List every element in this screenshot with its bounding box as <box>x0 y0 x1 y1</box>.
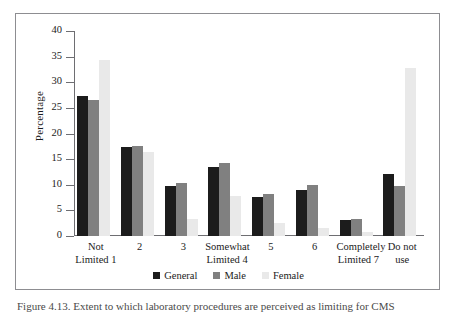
x-axis-label: 6 <box>293 240 337 253</box>
bar-general <box>383 174 394 236</box>
y-axis-tick-label: 0 <box>40 229 62 240</box>
y-axis-tick: 5 <box>66 210 74 211</box>
bar-cluster <box>119 31 163 236</box>
bar-general <box>121 147 132 236</box>
x-axis-label: Do not use <box>380 240 424 266</box>
legend-item[interactable]: Female <box>262 270 304 281</box>
bar-cluster <box>294 31 338 236</box>
y-axis-tick: 15 <box>66 159 74 160</box>
bar-cluster <box>250 31 294 236</box>
bar-female <box>187 219 198 236</box>
bar-general <box>165 186 176 236</box>
y-axis-tick-label: 10 <box>40 178 62 189</box>
legend-item[interactable]: Male <box>213 270 246 281</box>
bar-male <box>176 183 187 236</box>
y-axis-tick-label: 25 <box>40 101 62 112</box>
y-axis-tick: 35 <box>66 57 74 58</box>
legend-swatch-icon <box>153 272 160 279</box>
y-axis-tick: 40 <box>66 31 74 32</box>
legend-label: Male <box>224 270 246 281</box>
y-axis-tick-label: 35 <box>40 50 62 61</box>
x-axis-label: Not Limited 1 <box>74 240 118 266</box>
bars-layer <box>75 31 424 236</box>
bar-cluster <box>75 31 119 236</box>
bar-male <box>394 186 405 236</box>
bar-general <box>296 190 307 236</box>
bar-cluster <box>206 31 250 236</box>
y-axis-tick: 10 <box>66 185 74 186</box>
y-axis-tick-label: 30 <box>40 75 62 86</box>
bar-cluster <box>338 31 382 236</box>
bar-male <box>88 100 99 236</box>
x-axis-label: Completely Limited 7 <box>337 240 381 266</box>
bar-general <box>252 197 263 236</box>
x-axis-label: 5 <box>249 240 293 253</box>
x-axis-labels: Not Limited 123Somewhat Limited 456Compl… <box>74 240 424 272</box>
x-axis-label: 3 <box>162 240 206 253</box>
bar-female <box>405 68 416 236</box>
bar-cluster <box>381 31 425 236</box>
y-axis-tick: 25 <box>66 108 74 109</box>
bar-female <box>230 196 241 236</box>
bar-female <box>274 223 285 236</box>
legend-label: Female <box>273 270 304 281</box>
figure-caption: Figure 4.13. Extent to which laboratory … <box>17 299 443 314</box>
y-axis-tick-label: 40 <box>40 24 62 35</box>
y-axis-tick-label: 5 <box>40 203 62 214</box>
y-axis-title: Percentage <box>33 46 45 186</box>
bar-female <box>362 232 373 236</box>
bar-female <box>318 228 329 236</box>
y-axis-tick: 30 <box>66 82 74 83</box>
legend-label: General <box>164 270 197 281</box>
x-axis-label: Somewhat Limited 4 <box>205 240 249 266</box>
plot-area: 0510152025303540 <box>74 31 424 236</box>
bar-general <box>208 167 219 236</box>
x-axis-label: 2 <box>118 240 162 253</box>
bar-male <box>307 185 318 236</box>
y-axis-tick-label: 15 <box>40 152 62 163</box>
legend-swatch-icon <box>262 272 269 279</box>
y-axis-tick-label: 20 <box>40 127 62 138</box>
legend-item[interactable]: General <box>153 270 197 281</box>
chart-legend: GeneralMaleFemale <box>16 270 441 281</box>
figure-container: Percentage 0510152025303540 Not Limited … <box>0 0 457 314</box>
bar-male <box>263 194 274 236</box>
chart-frame: Percentage 0510152025303540 Not Limited … <box>15 13 440 290</box>
bar-male <box>132 146 143 236</box>
y-axis-tick: 0 <box>66 236 74 237</box>
bar-female <box>143 152 154 236</box>
y-axis-tick: 20 <box>66 134 74 135</box>
bar-female <box>99 60 110 236</box>
bar-general <box>340 220 351 236</box>
bar-male <box>351 219 362 236</box>
bar-male <box>219 163 230 236</box>
legend-swatch-icon <box>213 272 220 279</box>
bar-general <box>77 96 88 236</box>
bar-cluster <box>163 31 207 236</box>
